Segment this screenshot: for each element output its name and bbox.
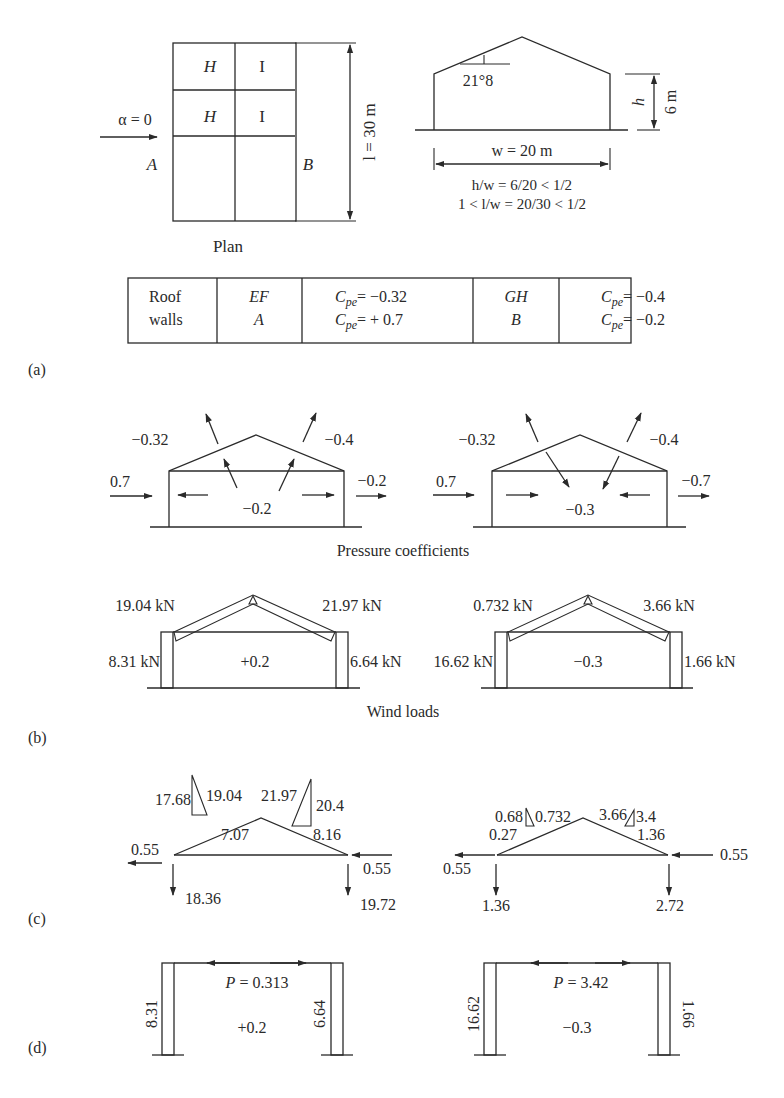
width-label: w = 20 m [491, 142, 553, 159]
right-vertical-component: 3.4 [636, 808, 656, 825]
horizontal-left-force: 0.55 [131, 841, 159, 858]
left-reaction: 1.36 [482, 897, 510, 914]
table-cell-cpe: Cpe= + 0.7 [335, 311, 403, 332]
left-total-force: 19.04 [206, 787, 242, 804]
table-cell-zone: A [253, 311, 264, 328]
panel-label-d: (d) [28, 1039, 47, 1057]
frame-case-2: P = 3.42 16.62 1.66 −0.3 [465, 963, 697, 1055]
internal-value: +0.2 [237, 1019, 266, 1036]
zone-label: I [259, 57, 265, 76]
roof-angle-label: 21°8 [463, 72, 493, 89]
coefficient-table: Roof walls EF A GH B Cpe= −0.32 Cpe= + 0… [128, 278, 665, 343]
left-horizontal-component: 17.68 [155, 791, 191, 808]
wind-loads-case-1: 19.04 kN 21.97 kN 8.31 kN 6.64 kN +0.2 [108, 595, 402, 688]
internal-coeff: −0.3 [565, 501, 594, 518]
roof-left-coeff: −0.32 [458, 431, 495, 448]
face-b-label: B [303, 155, 314, 174]
internal-value: +0.2 [240, 653, 269, 670]
pressure-caption: Pressure coefficients [337, 542, 470, 559]
elevation-view: 21°8 h 6 m w = 20 m h/w = 6/20 < 1/2 1 <… [415, 37, 679, 212]
roof-right-load: 21.97 kN [322, 597, 382, 614]
right-vertical-component: 20.4 [316, 797, 344, 814]
zone-label: H [203, 57, 218, 76]
horizontal-right-force: 0.55 [363, 860, 391, 877]
panel-label-b: (b) [28, 729, 47, 747]
table-cell-element: Roof [149, 288, 182, 305]
roof-left-coeff: −0.32 [131, 431, 168, 448]
wall-right-load: 6.64 kN [350, 653, 402, 670]
internal-value: −0.3 [562, 1019, 591, 1036]
left-member-force: 7.07 [221, 826, 249, 843]
right-total-force: 21.97 [261, 787, 297, 804]
table-cell-zone: B [511, 311, 521, 328]
ratio-2: 1 < l/w = 20/30 < 1/2 [458, 196, 586, 212]
table-cell-cpe: Cpe= −0.2 [601, 311, 665, 332]
right-member-force: 8.16 [313, 826, 341, 843]
pressure-case-2: −0.32 −0.4 0.7 −0.7 −0.3 [433, 413, 711, 527]
length-label: l = 30 m [360, 103, 379, 160]
pressure-case-1: −0.32 −0.4 0.7 −0.2 −0.2 [110, 413, 387, 527]
left-reaction: 18.36 [185, 890, 221, 907]
zone-label: I [259, 107, 265, 126]
ratio-1: h/w = 6/20 < 1/2 [472, 177, 572, 193]
right-column-force: 6.64 [311, 1000, 328, 1028]
height-value: 6 m [662, 89, 679, 114]
wall-left-load: 16.62 kN [433, 653, 493, 670]
plan-view: H I H I α = 0 A B l = 30 m Plan [100, 43, 379, 256]
height-var: h [630, 98, 647, 106]
wind-loads-caption: Wind loads [367, 703, 440, 720]
leeward-wall-coeff: −0.7 [681, 472, 710, 489]
right-reaction: 2.72 [656, 897, 684, 914]
right-reaction: 19.72 [360, 896, 396, 913]
leeward-wall-coeff: −0.2 [357, 472, 386, 489]
frame-case-1: P = 0.313 8.31 6.64 +0.2 [143, 963, 353, 1055]
left-member-force: 0.27 [489, 826, 517, 843]
roof-right-load: 3.66 kN [643, 597, 695, 614]
roof-right-coeff: −0.4 [649, 431, 678, 448]
left-horizontal-component: 0.68 [495, 808, 523, 825]
panel-label-c: (c) [28, 910, 46, 928]
left-column-force: 8.31 [143, 1000, 160, 1028]
left-column-force: 16.62 [465, 996, 482, 1032]
truss-case-1: 17.68 19.04 21.97 20.4 7.07 8.16 0.55 0.… [128, 775, 396, 913]
plan-caption: Plan [213, 237, 244, 256]
internal-coeff: −0.2 [242, 500, 271, 517]
panel-label-a: (a) [28, 361, 46, 379]
windward-wall-coeff: 0.7 [436, 473, 456, 490]
table-cell-zone: GH [504, 288, 529, 305]
wall-left-load: 8.31 kN [108, 653, 160, 670]
horizontal-left-force: 0.55 [443, 860, 471, 877]
wall-right-load: 1.66 kN [684, 653, 736, 670]
table-cell-element: walls [149, 311, 183, 328]
right-column-force: 1.66 [680, 1000, 697, 1028]
truss-case-2: 0.68 0.732 3.66 3.4 0.27 1.36 0.55 0.55 … [443, 806, 748, 914]
table-cell-zone: EF [248, 288, 269, 305]
p-force-label: P = 0.313 [225, 974, 289, 991]
wind-direction-label: α = 0 [118, 111, 151, 128]
roof-left-load: 19.04 kN [115, 597, 175, 614]
zone-label: H [203, 107, 218, 126]
wind-load-diagram: H I H I α = 0 A B l = 30 m Plan 21°8 h 6… [0, 0, 784, 1098]
table-cell-cpe: Cpe= −0.4 [601, 288, 665, 309]
p-force-label: P = 3.42 [553, 974, 609, 991]
horizontal-right-force: 0.55 [720, 846, 748, 863]
windward-wall-coeff: 0.7 [110, 473, 130, 490]
roof-right-coeff: −0.4 [324, 431, 353, 448]
internal-value: −0.3 [573, 653, 602, 670]
face-a-label: A [146, 155, 158, 174]
right-member-force: 1.36 [637, 826, 665, 843]
roof-left-load: 0.732 kN [473, 597, 533, 614]
right-total-force: 3.66 [599, 806, 627, 823]
left-total-force: 0.732 [535, 808, 571, 825]
table-cell-cpe: Cpe= −0.32 [335, 288, 407, 309]
wind-loads-case-2: 0.732 kN 3.66 kN 16.62 kN 1.66 kN −0.3 [433, 595, 736, 688]
